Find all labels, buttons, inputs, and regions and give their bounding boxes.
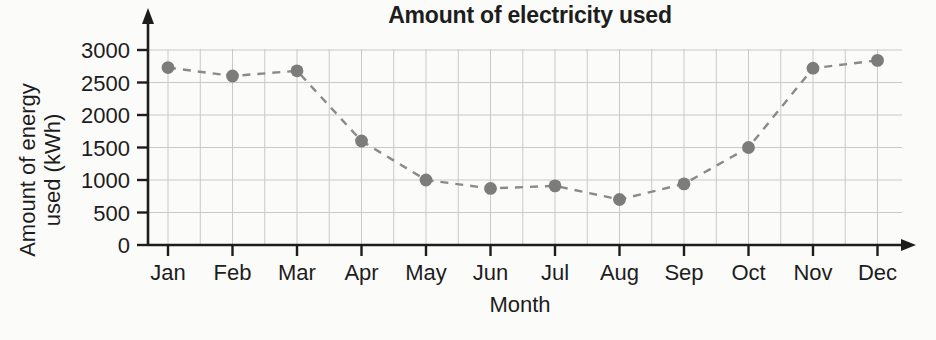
x-axis-tick-label: Jun xyxy=(473,260,508,285)
data-point-jul xyxy=(549,179,562,192)
data-point-oct xyxy=(742,141,755,154)
x-axis-tick-label: Jul xyxy=(541,260,569,285)
x-axis-tick-label: Dec xyxy=(858,260,897,285)
x-axis-tick-label: Mar xyxy=(278,260,316,285)
x-axis-tick-label: Nov xyxy=(793,260,832,285)
data-point-dec xyxy=(871,54,884,67)
y-axis-tick-label: 1500 xyxy=(81,136,130,161)
data-point-jun xyxy=(484,182,497,195)
data-point-apr xyxy=(355,135,368,148)
y-axis-tick-label: 3000 xyxy=(81,38,130,63)
x-axis-tick-label: Sep xyxy=(664,260,703,285)
x-axis-tick-label: Aug xyxy=(600,260,639,285)
y-axis-tick-label: 2000 xyxy=(81,103,130,128)
y-axis-tick-label: 500 xyxy=(93,201,130,226)
data-point-mar xyxy=(291,64,304,77)
data-point-may xyxy=(420,174,433,187)
x-axis-tick-label: Oct xyxy=(731,260,765,285)
chart-figure: Amount of electricity used Amount of ene… xyxy=(0,0,936,340)
chart-axes xyxy=(142,8,916,251)
x-axis-ticks: JanFebMarAprMayJunJulAugSepOctNovDec xyxy=(150,245,897,285)
y-axis-tick-label: 1000 xyxy=(81,168,130,193)
chart-plot-area: 050010001500200025003000 JanFebMarAprMay… xyxy=(0,0,936,340)
x-axis-tick-label: May xyxy=(405,260,447,285)
data-point-feb xyxy=(226,70,239,83)
data-point-aug xyxy=(613,193,626,206)
x-axis-tick-label: Feb xyxy=(214,260,252,285)
x-axis-tick-label: Jan xyxy=(150,260,185,285)
data-point-jan xyxy=(162,61,175,74)
y-axis-ticks: 050010001500200025003000 xyxy=(81,38,148,258)
data-point-sep xyxy=(678,178,691,191)
data-point-nov xyxy=(807,62,820,75)
y-axis-tick-label: 0 xyxy=(118,233,130,258)
x-axis-tick-label: Apr xyxy=(344,260,378,285)
y-axis-tick-label: 2500 xyxy=(81,71,130,96)
